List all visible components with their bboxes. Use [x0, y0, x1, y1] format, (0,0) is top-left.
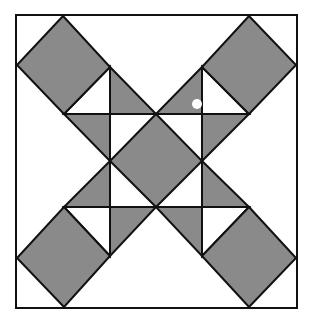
- pattern-canvas: [0, 0, 311, 321]
- white-dot-marker[interactable]: [192, 99, 202, 109]
- quilt-pattern-figure: [0, 0, 311, 321]
